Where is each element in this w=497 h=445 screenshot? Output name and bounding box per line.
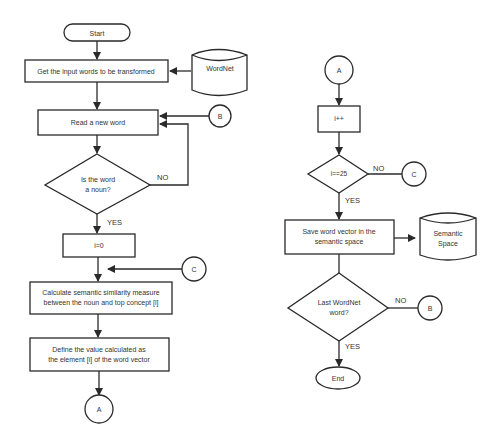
init-i-label: i=0 (94, 242, 104, 249)
no-label: NO (157, 173, 168, 182)
connector-a-out-label: A (97, 406, 102, 413)
connector-c-out: C (402, 162, 426, 186)
connector-a-in: A (325, 56, 353, 84)
read-word-label: Read a new word (71, 119, 126, 126)
decision-last-wordnet-word: Last WordNet word? (288, 273, 388, 341)
connector-b-label: B (218, 113, 223, 120)
calc-line1: Calculate semantic similarity measure (42, 289, 160, 297)
increment-process: i++ (318, 106, 360, 132)
connector-c-in: C (182, 257, 206, 281)
save-line2: semantic space (315, 238, 364, 246)
decision-last-line1: Last WordNet (318, 299, 361, 306)
end-label: End (332, 375, 345, 382)
semantic-db-line1: Semantic (433, 230, 463, 237)
save-line1: Save word vector in the (302, 228, 375, 235)
connector-a-out: A (85, 395, 113, 423)
define-line1: Define the value calculated as (52, 346, 146, 353)
semantic-db-line2: Space (438, 240, 458, 248)
decision-is-noun: Is the word a noun? (45, 154, 150, 214)
define-value-process: Define the value calculated as the eleme… (30, 338, 169, 371)
decision-i-label: i==25 (331, 170, 348, 177)
end-terminator: End (316, 367, 360, 389)
yes-label-1: YES (345, 196, 360, 205)
read-word-process: Read a new word (38, 110, 158, 135)
start-label: Start (90, 30, 105, 37)
connector-c-out-label: C (411, 171, 416, 178)
yes-label-2: YES (345, 342, 360, 351)
no-label-2: NO (395, 296, 406, 305)
save-vector-process: Save word vector in the semantic space (285, 220, 394, 254)
wordnet-label: WordNet (206, 65, 234, 72)
connector-c-label: C (191, 266, 196, 273)
get-input-label: Get the input words to be transformed (37, 68, 155, 76)
define-line2: the element [i] of the word vector (48, 356, 150, 364)
connector-a-in-label: A (337, 67, 342, 74)
wordnet-database: WordNet (192, 50, 247, 96)
connector-b-in: B (209, 105, 231, 127)
connector-b-out: B (418, 296, 442, 320)
flowchart-canvas: Start Get the input words to be transfor… (0, 0, 497, 445)
semantic-space-database: Semantic Space (420, 213, 476, 260)
increment-label: i++ (334, 115, 344, 122)
yes-label: YES (107, 218, 122, 227)
init-i-process: i=0 (63, 234, 135, 257)
no-label-1: NO (373, 164, 384, 173)
decision-last-line2: word? (328, 309, 348, 316)
decision-noun-line2: a noun? (85, 186, 110, 193)
decision-i-equals-25: i==25 (308, 155, 368, 193)
calc-line2: between the noun and top concept [i] (44, 299, 159, 307)
connector-b-out-label: B (428, 305, 433, 312)
start-terminator: Start (64, 24, 130, 41)
get-input-process: Get the input words to be transformed (25, 60, 168, 82)
decision-noun-line1: Is the word (81, 176, 115, 183)
calculate-similarity-process: Calculate semantic similarity measure be… (30, 282, 172, 314)
